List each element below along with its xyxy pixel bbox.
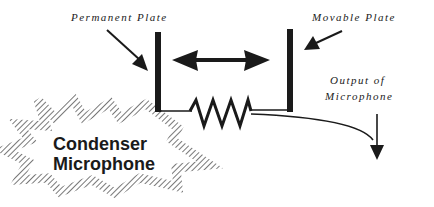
permanent-plate-pointer-icon [107,30,148,71]
movable-plate [287,29,293,112]
diagram-title-line1: Condenser [53,135,147,154]
double-arrow-icon [172,50,270,71]
diagram-title-line2: Microphone [53,155,155,174]
movable-plate-label: Movable Plate [312,11,396,23]
output-arrow-icon [370,114,384,160]
output-label-line1: Output of [330,74,385,86]
permanent-plate-label: Permanent Plate [71,11,168,23]
permanent-plate [155,32,161,112]
resistor-circuit [155,100,373,140]
movable-plate-pointer-icon [304,31,342,50]
condenser-diagram [0,0,434,207]
output-label-line2: Microphone [325,90,393,102]
